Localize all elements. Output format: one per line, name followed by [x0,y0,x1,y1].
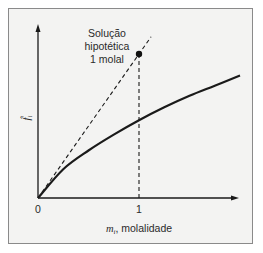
annotation-line-3: 1 molal [90,53,124,65]
x-axis-text: , molalidade [115,222,172,234]
annotation-line-2: hipotética [85,40,130,52]
y-axis-subscript: i [26,115,34,117]
x-tick-label-0: 0 [35,203,41,215]
y-axis-label: f̂i [20,115,34,120]
real-fugacity-curve [38,76,240,198]
x-tick-label-1: 1 [136,203,142,215]
x-axis-label: mi, molalidade [106,222,172,236]
hypothetical-1-molal-point [136,51,142,57]
annotation-line-1: Solução [88,27,126,39]
x-axis-arrow-icon [231,196,239,201]
molality-fugacity-diagram: Solução hipotética 1 molal 0 1 mi, molal… [0,0,263,253]
y-axis-arrow-icon [36,24,41,32]
